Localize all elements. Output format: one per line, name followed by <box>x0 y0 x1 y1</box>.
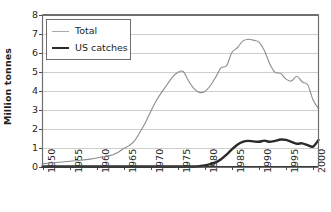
series-line-us-catches <box>43 139 319 166</box>
legend-label-total: Total <box>75 26 97 36</box>
legend-swatch-total-icon <box>52 31 69 32</box>
legend-swatch-us-catches-icon <box>52 47 69 49</box>
line-chart: Million tonnes 012345678 195019551960196… <box>0 0 331 212</box>
legend-item-us-catches: US catches <box>52 40 128 56</box>
legend-label-us-catches: US catches <box>75 43 128 53</box>
legend: Total US catches <box>46 19 131 60</box>
legend-item-total: Total <box>52 23 97 39</box>
